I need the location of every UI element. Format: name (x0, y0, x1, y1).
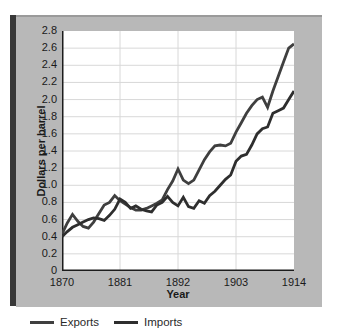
y-tick-label: 2.2 (42, 77, 57, 88)
x-tick-label: 1914 (282, 277, 306, 288)
y-tick-label: 0.4 (42, 231, 57, 242)
y-tick-label: 2.6 (42, 42, 57, 53)
y-tick-label: 2.0 (42, 94, 57, 105)
line-chart (62, 31, 294, 271)
plot-area (62, 31, 294, 271)
x-tick-label: 1870 (50, 277, 74, 288)
exports-line-swatch (30, 321, 54, 324)
legend-label-imports: Imports (144, 316, 182, 328)
y-tick-label: 1.6 (42, 128, 57, 139)
legend-label-exports: Exports (60, 316, 99, 328)
legend-item-exports: Exports (30, 316, 99, 328)
x-tick-label: 1903 (224, 277, 248, 288)
y-tick-label: 2.8 (42, 25, 57, 36)
legend: Exports Imports (30, 316, 182, 328)
y-tick-label: 0.2 (42, 248, 57, 259)
y-tick-label: 0 (51, 265, 57, 276)
y-tick-label: 0.8 (42, 197, 57, 208)
legend-item-imports: Imports (114, 316, 182, 328)
y-tick-label: 2.4 (42, 60, 57, 71)
y-tick-label: 1.2 (42, 162, 57, 173)
y-tick-label: 0.6 (42, 214, 57, 225)
x-tick-label: 1881 (108, 277, 132, 288)
y-tick-label: 1.4 (42, 145, 57, 156)
y-tick-label: 1.8 (42, 111, 57, 122)
y-tick-label: 1.0 (42, 180, 57, 191)
y-axis-tick-labels: 00.20.40.60.81.01.21.41.61.82.02.22.42.6… (0, 0, 57, 331)
x-axis-title: Year (166, 288, 189, 300)
imports-line-swatch (114, 321, 138, 324)
x-tick-label: 1892 (166, 277, 190, 288)
